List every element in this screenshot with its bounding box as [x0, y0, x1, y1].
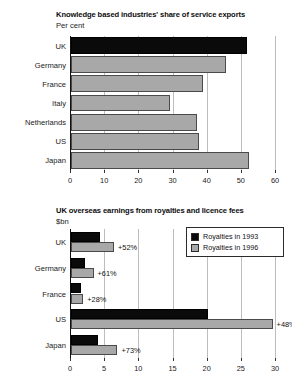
x-axis-tick-label: 20	[203, 364, 211, 373]
chart-title-top: Knowledge based industries' share of ser…	[56, 10, 245, 19]
x-axis-tick	[138, 170, 139, 173]
bar	[71, 345, 117, 355]
x-axis-tick-label: 50	[237, 176, 245, 185]
chart-knowledge-share: Knowledge based industries' share of ser…	[0, 0, 292, 196]
x-axis-tick	[70, 170, 71, 173]
y-axis-category-label: US	[2, 137, 66, 146]
bar-annotation: +52%	[118, 242, 137, 251]
y-axis-category-label: France	[2, 79, 66, 88]
chart-page: { "chart_data": [ { "id": "knowledge-sha…	[0, 0, 292, 391]
x-axis-tick-label: 20	[134, 176, 142, 185]
x-axis-tick-label: 40	[203, 176, 211, 185]
x-axis-tick-label: 10	[100, 176, 108, 185]
legend-item: Royalties in 1996	[191, 242, 279, 253]
bar	[71, 133, 199, 150]
x-axis-tick-label: 60	[271, 176, 279, 185]
bar	[71, 283, 81, 293]
x-axis-tick-label: 0	[68, 364, 72, 373]
chart-subtitle-bottom: $bn	[56, 217, 69, 226]
bar	[71, 56, 226, 73]
x-axis-tick-label: 10	[134, 364, 142, 373]
x-axis-tick-label: 5	[102, 364, 106, 373]
x-axis-tick	[241, 170, 242, 173]
legend-label: Royalties in 1996	[203, 243, 258, 252]
x-axis-tick	[173, 358, 174, 361]
bar	[71, 258, 85, 268]
y-axis-category-label: Italy	[2, 99, 66, 108]
bar-annotation: +73%	[121, 346, 140, 355]
x-axis-tick	[70, 358, 71, 361]
bar	[71, 152, 249, 169]
gridline	[173, 229, 174, 358]
chart-title-bottom: UK overseas earnings from royalties and …	[56, 206, 244, 215]
bar	[71, 232, 100, 242]
x-axis-tick	[241, 358, 242, 361]
x-axis-tick	[173, 170, 174, 173]
x-axis-tick	[275, 170, 276, 173]
x-axis-tick	[207, 170, 208, 173]
gridline	[241, 36, 242, 170]
y-axis-category-label: Germany	[2, 60, 66, 69]
x-axis-tick	[138, 358, 139, 361]
y-axis-category-label: France	[2, 289, 66, 298]
bar	[71, 95, 170, 112]
y-axis-category-label: UK	[2, 41, 66, 50]
legend-swatch	[191, 244, 199, 252]
bar	[71, 37, 247, 54]
y-axis-category-label: Japan	[2, 156, 66, 165]
x-axis-tick	[104, 170, 105, 173]
y-axis-category-label: Germany	[2, 263, 66, 272]
y-axis-category-label: Netherlands	[2, 118, 66, 127]
bar-annotation: +48%	[277, 320, 292, 329]
chart-legend: Royalties in 1993Royalties in 1996	[186, 227, 284, 257]
plot-area-top: 0102030405060UKGermanyFranceItalyNetherl…	[70, 36, 275, 170]
y-axis-category-label: UK	[2, 237, 66, 246]
x-axis-tick-label: 30	[168, 176, 176, 185]
x-axis-tick-label: 0	[68, 176, 72, 185]
legend-item: Royalties in 1993	[191, 231, 279, 242]
bar-annotation: +61%	[98, 268, 117, 277]
y-axis-category-label: Japan	[2, 341, 66, 350]
bar	[71, 114, 197, 131]
bar	[71, 242, 114, 252]
x-axis-tick-label: 25	[237, 364, 245, 373]
bar	[71, 309, 208, 319]
bar	[71, 294, 83, 304]
legend-swatch	[191, 233, 199, 241]
bar	[71, 319, 273, 329]
chart-subtitle-top: Per cent	[56, 21, 84, 30]
bar	[71, 335, 98, 345]
x-axis-tick	[207, 358, 208, 361]
x-axis-tick-label: 30	[271, 364, 279, 373]
x-axis-tick	[104, 358, 105, 361]
x-axis-tick	[275, 358, 276, 361]
chart-royalties-earnings: UK overseas earnings from royalties and …	[0, 196, 292, 391]
legend-label: Royalties in 1993	[203, 232, 258, 241]
x-axis-tick-label: 15	[168, 364, 176, 373]
bar	[71, 75, 203, 92]
y-axis-category-label: US	[2, 315, 66, 324]
gridline	[138, 229, 139, 358]
bar	[71, 268, 94, 278]
gridline	[275, 36, 276, 170]
bar-annotation: +28%	[87, 294, 106, 303]
